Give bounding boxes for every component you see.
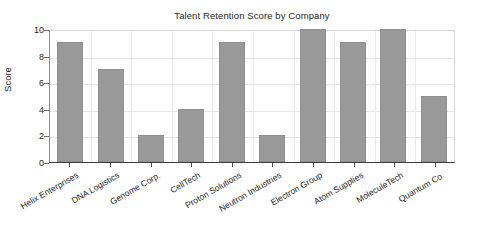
y-axis-tick-label: 6 bbox=[18, 78, 44, 88]
chart-title: Talent Retention Score by Company bbox=[49, 10, 455, 21]
bar bbox=[300, 29, 326, 162]
bar bbox=[259, 135, 285, 162]
x-axis-tick-mark bbox=[394, 163, 395, 167]
x-axis-tick-mark bbox=[272, 163, 273, 167]
y-axis-tick-label: 8 bbox=[18, 52, 44, 62]
x-axis-tick-mark bbox=[232, 163, 233, 167]
x-axis-tick-mark bbox=[435, 163, 436, 167]
y-axis-tick-label: 4 bbox=[18, 105, 44, 115]
bar bbox=[178, 109, 204, 162]
x-axis-tick-mark bbox=[110, 163, 111, 167]
bar-chart-figure: Talent Retention Score by Company Score … bbox=[0, 0, 478, 249]
bar bbox=[219, 42, 245, 162]
y-axis-tick-mark bbox=[44, 163, 49, 164]
y-axis-tick-label: 2 bbox=[18, 131, 44, 141]
y-axis-tick-label: 10 bbox=[18, 25, 44, 35]
bar bbox=[57, 42, 83, 162]
y-axis-label: Score bbox=[2, 67, 13, 92]
bar bbox=[138, 135, 164, 162]
x-axis-tick-mark bbox=[354, 163, 355, 167]
x-axis-tick-mark bbox=[313, 163, 314, 167]
bar bbox=[340, 42, 366, 162]
bar-series bbox=[50, 31, 454, 162]
x-axis-tick-mark bbox=[69, 163, 70, 167]
x-axis-tick-mark bbox=[151, 163, 152, 167]
x-axis-tick-mark bbox=[191, 163, 192, 167]
x-axis-tick-label: CellTech bbox=[169, 170, 203, 195]
bar bbox=[380, 29, 406, 162]
bar bbox=[421, 96, 447, 163]
y-axis-tick-label: 0 bbox=[18, 158, 44, 168]
plot-area bbox=[49, 30, 455, 163]
bar bbox=[98, 69, 124, 162]
x-axis-tick-label: Helix Enterprises bbox=[19, 170, 80, 211]
